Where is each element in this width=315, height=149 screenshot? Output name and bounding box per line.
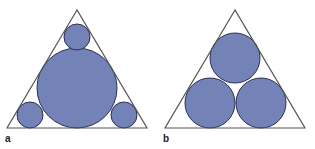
- panel-b-triangle-with-three-circles: [165, 10, 305, 128]
- circle-3: [236, 78, 286, 128]
- circle-1: [37, 48, 117, 128]
- circle-2: [185, 78, 235, 128]
- circle-3: [17, 102, 43, 128]
- panel-a-label: a: [5, 133, 11, 144]
- circle-packing-diagram: [0, 0, 315, 149]
- panel-b-label: b: [163, 133, 169, 144]
- panel-a-triangle-with-four-circles: [7, 10, 147, 128]
- circle-4: [111, 102, 137, 128]
- circle-2: [64, 24, 90, 50]
